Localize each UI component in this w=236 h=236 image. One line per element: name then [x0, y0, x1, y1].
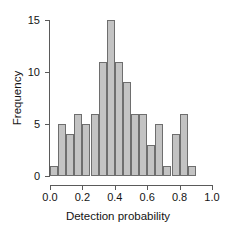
- histogram-bar: [139, 114, 147, 176]
- x-axis-tick: [82, 185, 83, 190]
- histogram-bar: [188, 166, 196, 176]
- plot-area: [50, 20, 212, 176]
- histogram-bar: [115, 62, 123, 176]
- y-axis-tick: [45, 176, 50, 177]
- histogram-bar: [82, 124, 90, 176]
- y-axis-tick-label: 15: [14, 15, 40, 26]
- histogram-bar: [91, 114, 99, 176]
- x-axis-tick-label: 0.2: [65, 192, 99, 203]
- histogram-bar: [163, 166, 171, 176]
- histogram-bar: [99, 62, 107, 176]
- histogram-bar: [180, 114, 188, 176]
- y-axis-spine: [49, 20, 50, 177]
- x-axis-tick-label: 0.8: [163, 192, 197, 203]
- y-axis-label: Frequency: [11, 43, 23, 153]
- x-axis-tick: [50, 185, 51, 190]
- x-axis-tick-label: 0.6: [130, 192, 164, 203]
- histogram-figure: 0510150.00.20.40.60.81.0 Detection proba…: [0, 0, 236, 236]
- x-axis-tick-label: 1.0: [195, 192, 229, 203]
- histogram-bar: [172, 134, 180, 176]
- y-axis-tick: [45, 20, 50, 21]
- y-axis-tick: [45, 72, 50, 73]
- y-axis-tick: [45, 124, 50, 125]
- x-axis-tick-label: 0.0: [33, 192, 67, 203]
- x-axis-spine: [50, 185, 212, 186]
- histogram-bar: [123, 82, 131, 176]
- x-axis-tick: [212, 185, 213, 190]
- x-axis-label: Detection probability: [0, 210, 236, 222]
- histogram-bar: [155, 124, 163, 176]
- histogram-bar: [147, 145, 155, 176]
- histogram-bar: [58, 124, 66, 176]
- histogram-bar: [74, 114, 82, 176]
- y-axis-tick-label: 0: [14, 171, 40, 182]
- x-axis-tick: [180, 185, 181, 190]
- x-axis-tick: [115, 185, 116, 190]
- histogram-bar: [107, 20, 115, 176]
- histogram-bar: [131, 114, 139, 176]
- histogram-bar: [50, 166, 58, 176]
- x-axis-tick: [147, 185, 148, 190]
- x-axis-tick-label: 0.4: [98, 192, 132, 203]
- histogram-bar: [66, 134, 74, 176]
